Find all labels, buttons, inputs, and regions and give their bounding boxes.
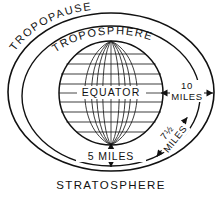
dimension-5-label: 5 MILES	[88, 150, 135, 162]
diagram-canvas: EQUATOR TROPOPAUSE TROPOSPHERE 10 MILES	[0, 0, 222, 198]
arrowhead-right-10	[207, 90, 214, 97]
equator-label: EQUATOR	[82, 86, 141, 98]
atmosphere-diagram: EQUATOR TROPOPAUSE TROPOSPHERE 10 MILES	[0, 0, 222, 198]
dimension-10-miles: 10 MILES	[161, 80, 213, 102]
dimension-10-unit: MILES	[171, 91, 203, 102]
dimension-10-value: 10	[181, 80, 193, 91]
stratosphere-label: STRATOSPHERE	[56, 179, 166, 191]
dimension-7-5-miles: 7½ MILES	[147, 110, 196, 163]
arrowhead-left-10	[161, 90, 168, 97]
